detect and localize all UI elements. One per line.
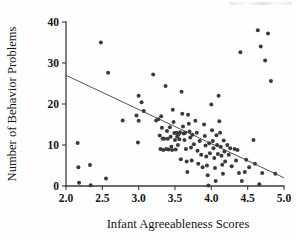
data-point: [219, 145, 223, 149]
data-point: [196, 162, 200, 166]
data-point: [99, 41, 103, 45]
data-point: [190, 159, 194, 163]
data-point: [164, 84, 168, 88]
x-tick-label: 3.0: [131, 192, 146, 204]
data-point: [257, 182, 261, 186]
data-point: [106, 71, 110, 75]
x-tick-label: 2.0: [59, 192, 74, 204]
data-point: [156, 117, 160, 121]
data-point: [230, 164, 234, 168]
data-point: [168, 125, 172, 129]
y-tick-label: 0: [53, 180, 59, 192]
data-point: [207, 141, 211, 145]
data-point: [235, 148, 239, 152]
data-point: [192, 142, 196, 146]
data-point: [162, 137, 166, 141]
x-tick-label: 5.0: [277, 192, 292, 204]
data-point: [216, 152, 220, 156]
data-point: [203, 134, 207, 138]
data-point: [256, 28, 260, 32]
data-point: [244, 158, 248, 162]
data-point: [176, 143, 180, 147]
data-point: [222, 138, 226, 142]
data-point: [186, 113, 190, 117]
data-point: [178, 130, 182, 134]
y-tick-label: 20: [48, 98, 60, 110]
data-point: [104, 177, 108, 181]
data-point: [240, 179, 244, 183]
data-point: [89, 183, 93, 187]
data-point: [214, 133, 218, 137]
data-point: [137, 119, 141, 123]
x-tick-label: 4.5: [240, 192, 255, 204]
y-axis-title: Number of Behavior Problems: [5, 26, 19, 181]
data-point: [260, 171, 264, 175]
data-point: [227, 153, 231, 157]
data-point: [185, 170, 189, 174]
data-point: [142, 109, 146, 113]
axes-group: [66, 22, 284, 186]
data-point: [215, 143, 219, 147]
data-point: [243, 170, 247, 174]
data-point: [211, 139, 215, 143]
data-point: [273, 172, 277, 176]
data-point: [238, 50, 242, 54]
data-point: [202, 123, 206, 127]
data-point: [234, 159, 238, 163]
data-point: [251, 138, 255, 142]
data-point: [217, 94, 221, 98]
regression-line: [66, 75, 284, 178]
data-point: [223, 159, 227, 163]
data-point: [259, 45, 263, 49]
data-point: [188, 129, 192, 133]
data-point: [204, 154, 208, 158]
data-point: [208, 151, 212, 155]
data-point: [198, 139, 202, 143]
data-point: [180, 112, 184, 116]
data-point: [159, 114, 163, 118]
data-point: [174, 148, 178, 152]
x-tick-label: 2.5: [95, 192, 110, 204]
data-point: [121, 118, 125, 122]
data-point: [171, 108, 175, 112]
data-point: [225, 143, 229, 147]
data-point: [172, 120, 176, 124]
data-point: [269, 79, 273, 83]
data-point: [193, 119, 197, 123]
data-point: [165, 129, 169, 133]
data-point: [263, 59, 267, 63]
data-point: [205, 164, 209, 168]
data-point: [158, 134, 162, 138]
data-point: [247, 165, 251, 169]
tick-marks-group: [62, 22, 284, 190]
data-point: [169, 135, 173, 139]
data-point: [199, 153, 203, 157]
data-point: [217, 119, 221, 123]
data-point: [151, 72, 155, 76]
data-point: [189, 145, 193, 149]
data-point: [160, 126, 164, 130]
data-point: [209, 102, 213, 106]
data-point: [190, 133, 194, 137]
data-point: [214, 179, 218, 183]
data-point: [183, 131, 187, 135]
data-points-group: [76, 28, 278, 187]
data-point: [212, 156, 216, 160]
data-point: [187, 122, 191, 126]
regression-line-group: [66, 75, 284, 178]
data-point: [195, 131, 199, 135]
data-point: [136, 141, 140, 145]
data-point: [210, 128, 214, 132]
data-point: [237, 171, 241, 175]
scatterplot-figure: 010203040 2.02.53.03.54.04.55.0 Infant A…: [0, 0, 296, 240]
data-point: [134, 113, 138, 117]
x-axis-tick-labels: 2.02.53.03.54.04.55.0: [59, 192, 292, 204]
data-point: [266, 31, 270, 35]
data-point: [220, 163, 224, 167]
x-axis-title: Infant Agreeableness Scores: [107, 217, 250, 231]
data-point: [185, 159, 189, 163]
data-point: [221, 172, 225, 176]
data-point: [204, 143, 208, 147]
data-point: [228, 146, 232, 150]
data-point: [76, 165, 80, 169]
